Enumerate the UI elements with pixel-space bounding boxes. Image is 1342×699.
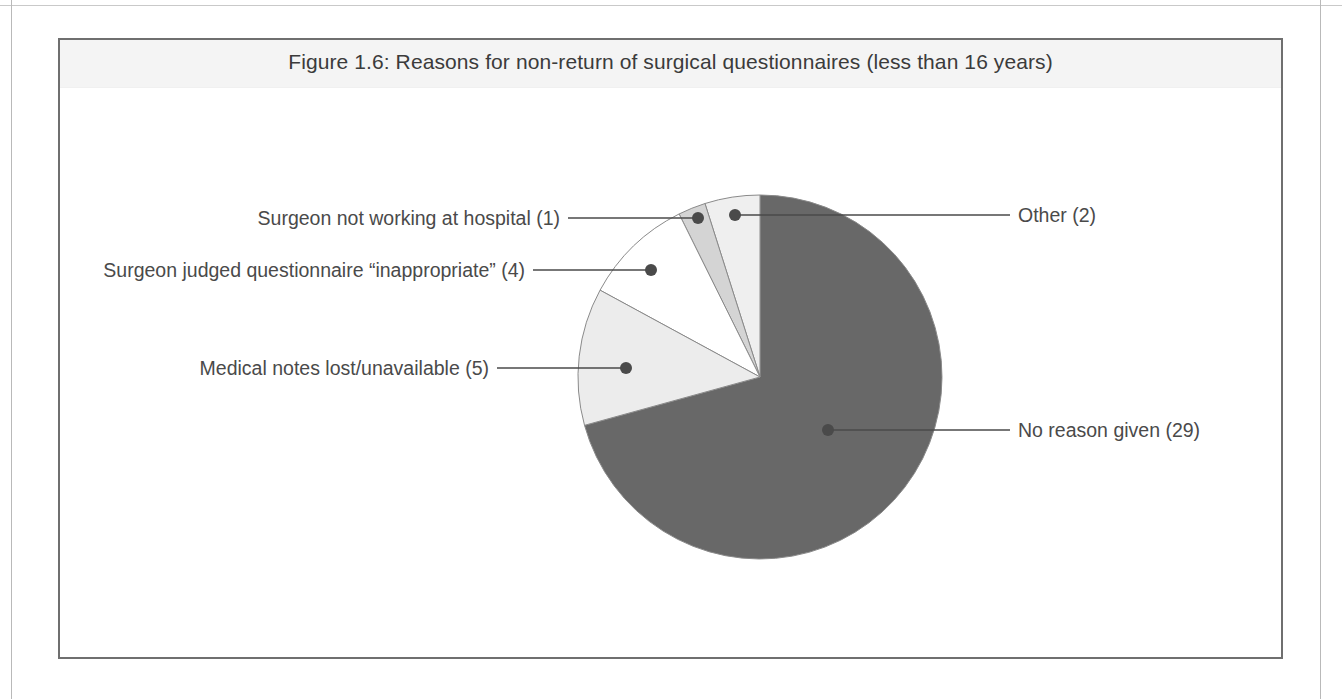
page-margin-rule-left <box>11 0 12 699</box>
leader-dot <box>729 209 741 221</box>
leader-dot <box>620 362 632 374</box>
pie-slice-label: Other (2) <box>1018 204 1096 227</box>
figure-frame: Figure 1.6: Reasons for non-return of su… <box>58 38 1283 659</box>
leader-dot <box>822 424 834 436</box>
leader-dot <box>645 264 657 276</box>
pie-slice-label: Medical notes lost/unavailable (5) <box>200 357 489 380</box>
page-margin-rule-top <box>0 5 1342 6</box>
figure-page: Figure 1.6: Reasons for non-return of su… <box>0 0 1342 699</box>
pie-slice-label: Surgeon not working at hospital (1) <box>258 207 560 230</box>
pie-slice-label: No reason given (29) <box>1018 419 1200 442</box>
leader-dot <box>692 212 704 224</box>
pie-chart-plot-area: No reason given (29)Other (2)Surgeon not… <box>60 88 1281 661</box>
pie-slice-label: Surgeon judged questionnaire “inappropri… <box>103 259 525 282</box>
figure-title: Figure 1.6: Reasons for non-return of su… <box>60 50 1281 74</box>
page-margin-rule-right <box>1320 0 1321 699</box>
